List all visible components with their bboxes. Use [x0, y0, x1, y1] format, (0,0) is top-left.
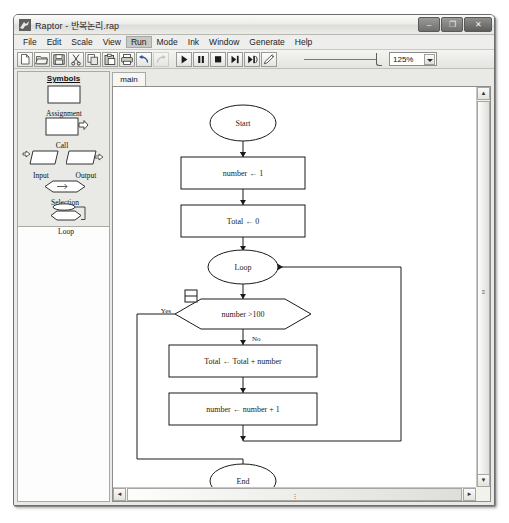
title-bar: Raptor - 반복논리.rap – ❐ ✕ — [14, 15, 494, 35]
node-init-total-label: Total ← 0 — [227, 217, 259, 226]
menu-bar: File Edit Scale View Run Mode Ink Window… — [14, 35, 494, 50]
maximize-button[interactable]: ❐ — [441, 17, 463, 32]
node-start-label: Start — [235, 119, 251, 128]
menu-scale[interactable]: Scale — [66, 36, 97, 48]
window-title: Raptor - 반복논리.rap — [35, 19, 119, 32]
node-loop: Loop — [208, 250, 278, 284]
flowchart-diagram: Start number ← 1 Total ← 0 — [113, 87, 476, 487]
node-init-number-label: number ← 1 — [223, 169, 263, 178]
paste-icon[interactable] — [102, 52, 118, 67]
branch-label-no: No — [252, 335, 261, 343]
new-file-icon[interactable] — [17, 52, 33, 67]
assignment-shape-icon — [47, 85, 81, 104]
horizontal-thumb-grip: ⋮ — [292, 491, 298, 498]
symbols-sidebar: Symbols Assignment Cal — [17, 71, 110, 502]
vertical-scroll-thumb[interactable]: ≡ — [477, 101, 490, 483]
menu-run[interactable]: Run — [126, 36, 152, 48]
stop-icon[interactable] — [210, 52, 226, 67]
node-init-number: number ← 1 — [181, 157, 305, 189]
horizontal-scroll-thumb[interactable]: ⋮ — [127, 488, 462, 501]
node-end-label: End — [237, 477, 250, 486]
toolbar-separator — [170, 52, 175, 67]
call-shape-icon — [45, 117, 89, 136]
zoom-level-combobox[interactable]: 125% — [389, 52, 437, 66]
chevron-down-icon[interactable] — [424, 54, 435, 65]
node-init-total: Total ← 0 — [181, 205, 305, 237]
node-accumulate: Total ← Total + number — [169, 345, 317, 377]
editor-pane: main — [112, 71, 491, 502]
step-icon[interactable] — [227, 52, 243, 67]
flowchart-canvas[interactable]: Start number ← 1 Total ← 0 — [113, 87, 476, 487]
loop-shape-icon — [43, 203, 89, 222]
cut-scissors-icon[interactable] — [68, 52, 84, 67]
node-end: End — [210, 464, 276, 487]
client-area: Symbols Assignment Cal — [14, 69, 494, 505]
menu-edit[interactable]: Edit — [42, 36, 67, 48]
horizontal-scrollbar[interactable]: ◄ ⋮ ► — [113, 487, 476, 501]
slider-track — [304, 59, 376, 60]
save-disk-icon[interactable] — [51, 52, 67, 67]
window-controls: – ❐ ✕ — [418, 17, 492, 33]
print-icon[interactable] — [119, 52, 135, 67]
flowchart-canvas-container: Start number ← 1 Total ← 0 — [112, 86, 491, 502]
vertical-thumb-grip: ≡ — [482, 289, 486, 295]
symbols-panel: Symbols Assignment Cal — [18, 72, 109, 227]
raptor-main-window: Raptor - 반복논리.rap – ❐ ✕ File Edit Scale … — [13, 14, 495, 506]
scroll-right-button[interactable]: ► — [463, 488, 476, 501]
scroll-down-button[interactable]: ▼ — [477, 474, 490, 487]
node-increment: number ← number + 1 — [169, 393, 317, 425]
step-into-icon[interactable] — [244, 52, 260, 67]
input-shape-icon — [22, 149, 60, 166]
screen-root: Raptor - 반복논리.rap – ❐ ✕ File Edit Scale … — [0, 0, 509, 523]
redo-arrow-icon — [153, 52, 169, 67]
tab-strip: main — [112, 71, 491, 86]
close-button[interactable]: ✕ — [464, 17, 492, 32]
symbol-input[interactable]: Input — [22, 149, 60, 180]
menu-help[interactable]: Help — [290, 36, 317, 48]
symbol-loop[interactable]: Loop — [42, 203, 90, 236]
node-condition-label: number >100 — [222, 310, 265, 319]
node-increment-label: number ← number + 1 — [206, 405, 279, 414]
menu-generate[interactable]: Generate — [244, 36, 289, 48]
run-play-icon[interactable] — [176, 52, 192, 67]
pencil-ink-icon[interactable] — [261, 52, 277, 67]
output-shape-icon — [66, 149, 106, 166]
selection-shape-icon — [43, 180, 87, 193]
node-accumulate-label: Total ← Total + number — [204, 357, 282, 366]
scroll-up-button[interactable]: ▲ — [477, 87, 490, 100]
slider-thumb[interactable] — [376, 53, 382, 66]
toolbar: 125% — [14, 50, 494, 69]
node-start: Start — [210, 105, 276, 141]
menu-ink[interactable]: Ink — [183, 36, 204, 48]
symbol-loop-label: Loop — [42, 227, 90, 236]
symbols-panel-title: Symbols — [18, 74, 109, 83]
zoom-level-value: 125% — [393, 55, 413, 64]
open-folder-icon[interactable] — [34, 52, 50, 67]
branch-label-yes: Yes — [161, 307, 171, 315]
scroll-left-button[interactable]: ◄ — [113, 488, 126, 501]
scrollbar-corner — [476, 487, 490, 501]
menu-window[interactable]: Window — [204, 36, 244, 48]
copy-icon[interactable] — [85, 52, 101, 67]
raptor-bird-icon — [19, 19, 31, 31]
tab-main[interactable]: main — [112, 72, 146, 86]
node-loop-label: Loop — [235, 263, 252, 272]
menu-mode[interactable]: Mode — [152, 36, 183, 48]
symbol-assignment[interactable]: Assignment — [44, 85, 84, 118]
menu-view[interactable]: View — [98, 36, 126, 48]
execution-speed-slider[interactable] — [304, 53, 382, 66]
symbol-call[interactable]: Call — [44, 117, 90, 150]
undo-arrow-icon[interactable] — [136, 52, 152, 67]
minimize-button[interactable]: – — [418, 17, 440, 32]
pause-icon[interactable] — [193, 52, 209, 67]
symbol-output[interactable]: Output — [66, 149, 106, 180]
menu-file[interactable]: File — [18, 36, 42, 48]
vertical-scrollbar[interactable]: ▲ ≡ ▼ — [476, 87, 490, 487]
